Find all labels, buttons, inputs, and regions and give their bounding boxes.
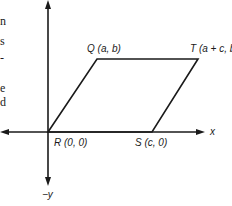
point-t-label: T (a + c, b) [190,44,232,54]
x-axis-right-arrow-icon [196,129,205,135]
diagram-canvas: Q (a, b) T (a + c, b) R (0, 0) S (c, 0) … [0,0,232,206]
x-axis-label: x [210,127,215,137]
coordinate-plane [0,0,232,206]
y-axis-up-arrow-icon [45,0,51,9]
margin-text-fragment: e [0,82,5,94]
parallelogram-rqts [48,59,198,132]
y-axis-down-arrow-icon [45,177,51,186]
margin-text-fragment: - [0,52,4,64]
y-axis [45,0,51,186]
neg-y-axis-label: −y [42,190,53,200]
margin-text-fragment: s [0,35,5,47]
point-q-label: Q (a, b) [87,44,121,54]
margin-text-fragment: d [0,96,6,108]
point-r-label: R (0, 0) [54,138,87,148]
margin-text-fragment: n [0,15,6,27]
point-s-label: S (c, 0) [135,138,167,148]
x-axis-left-arrow-icon [0,129,9,135]
